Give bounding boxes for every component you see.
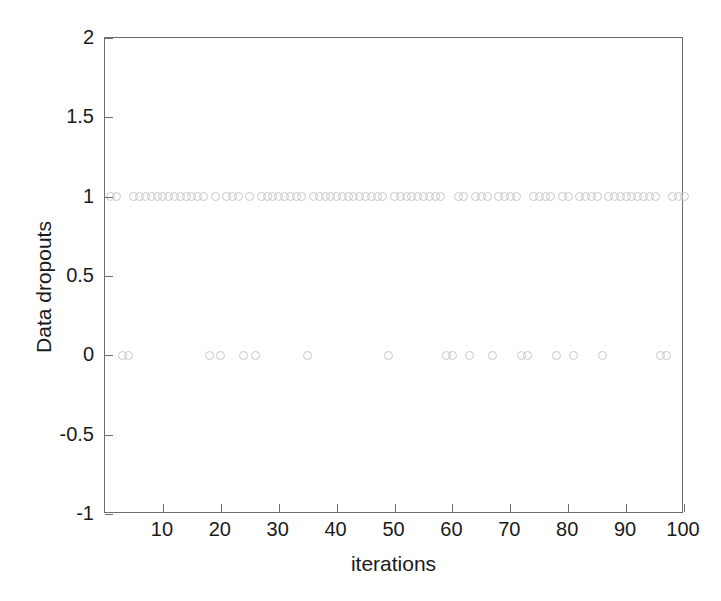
y-axis-tick-mark (105, 197, 113, 198)
x-axis-tick-label: 30 (267, 518, 289, 541)
x-axis-tick-label: 100 (666, 518, 699, 541)
y-axis-tick-mark (105, 435, 113, 436)
x-axis-tick-label: 60 (440, 518, 462, 541)
scatter-point (523, 351, 532, 360)
scatter-point (598, 351, 607, 360)
x-axis-title: iterations (104, 552, 683, 576)
x-axis-tick-mark (395, 504, 396, 512)
scatter-point (512, 192, 521, 201)
x-axis-tick-mark (510, 504, 511, 512)
y-axis-tick-mark (105, 276, 113, 277)
scatter-point (448, 351, 457, 360)
y-axis-tick-label: -1 (0, 502, 94, 525)
y-axis-tick-mark (105, 117, 113, 118)
x-axis-tick-label: 80 (556, 518, 578, 541)
x-axis-tick-mark (684, 504, 685, 512)
scatter-point (436, 192, 445, 201)
scatter-point (488, 351, 497, 360)
x-axis-tick-mark (452, 504, 453, 512)
y-axis-tick-label: 1.5 (0, 105, 94, 128)
scatter-series-data-dropouts (105, 38, 682, 512)
scatter-point (199, 192, 208, 201)
scatter-point (112, 192, 121, 201)
scatter-point (593, 192, 602, 201)
scatter-point (245, 192, 254, 201)
scatter-point (251, 351, 260, 360)
x-axis-tick-label: 90 (614, 518, 636, 541)
scatter-point (234, 192, 243, 201)
y-axis-title: Data dropouts (32, 167, 56, 407)
y-axis-tick-mark (105, 355, 113, 356)
x-axis-tick-mark (163, 504, 164, 512)
x-axis-tick-label: 20 (209, 518, 231, 541)
x-axis-tick-mark (221, 504, 222, 512)
scatter-point (662, 351, 671, 360)
y-axis-tick-mark (105, 514, 113, 515)
scatter-point (205, 351, 214, 360)
scatter-point (239, 351, 248, 360)
x-axis-tick-mark (279, 504, 280, 512)
scatter-point (483, 192, 492, 201)
scatter-point (384, 351, 393, 360)
scatter-point (465, 351, 474, 360)
scatter-point (378, 192, 387, 201)
y-axis-tick-mark (105, 38, 113, 39)
x-axis-tick-mark (626, 504, 627, 512)
y-axis-tick-label: 2 (0, 26, 94, 49)
scatter-point (564, 192, 573, 201)
x-axis-tick-label: 50 (382, 518, 404, 541)
scatter-point (216, 351, 225, 360)
scatter-point (211, 192, 220, 201)
figure-canvas: -1-0.500.511.52 iterations Data dropouts… (0, 0, 721, 601)
scatter-point (297, 192, 306, 201)
x-axis-tick-mark (568, 504, 569, 512)
plot-area (104, 37, 683, 513)
y-axis-tick-label: -0.5 (0, 422, 94, 445)
scatter-point (459, 192, 468, 201)
x-axis-tick-label: 40 (324, 518, 346, 541)
scatter-point (546, 192, 555, 201)
scatter-point (651, 192, 660, 201)
scatter-point (124, 351, 133, 360)
x-axis-tick-label: 70 (498, 518, 520, 541)
scatter-point (680, 192, 689, 201)
x-axis-tick-mark (337, 504, 338, 512)
scatter-point (303, 351, 312, 360)
scatter-point (569, 351, 578, 360)
x-axis-tick-label: 10 (151, 518, 173, 541)
scatter-point (552, 351, 561, 360)
